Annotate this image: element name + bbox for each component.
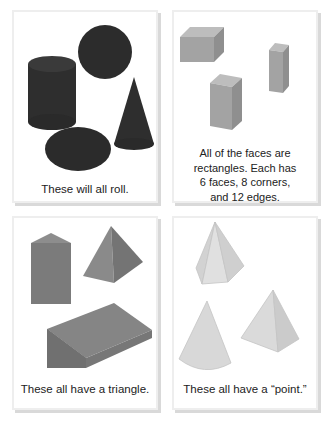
cone-icon: [114, 77, 154, 150]
triangular-prism-icon: [31, 233, 71, 304]
cone-sector-icon: [179, 301, 231, 370]
sphere-icon: [78, 25, 132, 79]
ellipsoid-icon: [45, 127, 111, 171]
rectangular-prism-narrow-icon: [269, 43, 289, 93]
hexagonal-pyramid-icon: [196, 222, 244, 284]
caption-line: All of the faces are: [174, 146, 316, 161]
panel-caption: These all have a triangle.: [14, 382, 156, 397]
panel-point: These all have a “point.”: [172, 216, 318, 410]
cylinder-icon: [28, 56, 76, 130]
triangular-pyramid-icon: [241, 290, 299, 352]
panel-triangle: These all have a triangle.: [12, 216, 158, 410]
rolling-shapes-illustration: [14, 12, 160, 205]
panel-roll: These will all roll.: [12, 10, 158, 203]
panel-caption: All of the faces are rectangles. Each ha…: [174, 146, 316, 204]
caption-line: and 12 edges.: [174, 190, 316, 205]
rectangular-prism-tall-icon: [210, 74, 242, 130]
caption-line: rectangles. Each has: [174, 161, 316, 176]
panel-caption: These will all roll.: [14, 182, 156, 197]
rectangular-prism-wide-icon: [180, 27, 224, 62]
wedge-icon: [47, 303, 152, 368]
panel-caption: These all have a “point.”: [174, 382, 316, 397]
square-pyramid-icon: [83, 226, 143, 283]
panel-rectangles: All of the faces are rectangles. Each ha…: [172, 10, 318, 203]
caption-line: 6 faces, 8 corners,: [174, 175, 316, 190]
